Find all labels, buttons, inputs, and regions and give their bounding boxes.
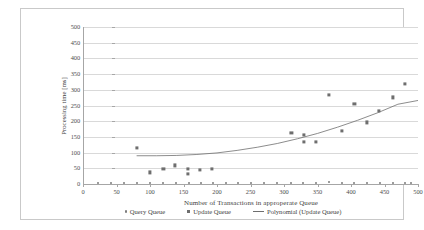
y-tick-mark [112,168,115,169]
x-tick-label: 350 [313,189,322,195]
data-point-update-queue [187,172,190,175]
plot-area [83,27,418,184]
y-axis-line [83,27,84,185]
x-tick-mark [351,184,352,187]
y-tick-mark [112,58,115,59]
y-axis-title-wrapper: Processing time [ms] [47,27,61,184]
x-tick-label: 500 [413,189,422,195]
x-tick-mark [83,184,84,187]
data-point-update-queue [327,93,330,96]
data-point-update-queue [210,167,213,170]
legend-label: Update Queue [193,208,231,215]
legend-dot-icon [125,210,127,212]
y-tick-mark [112,27,115,28]
x-tick-mark [184,184,185,187]
x-axis-title: Number of Transactions in approperate Qu… [83,199,419,207]
y-tick-mark [112,121,115,122]
x-tick-label: 300 [279,189,288,195]
legend-item: Query Queue [125,208,166,215]
data-point-update-queue [404,82,407,85]
polynomial-trendline [83,27,418,184]
data-point-update-queue [340,129,343,132]
data-point-update-queue [353,102,356,105]
legend-label: Polynomial (Update Queue) [267,208,341,215]
y-tick-mark [112,74,115,75]
x-tick-label: 100 [145,189,154,195]
data-point-update-queue [148,171,151,174]
data-point-update-queue [199,169,202,172]
data-point-update-queue [391,96,394,99]
legend-square-icon [187,210,190,213]
x-tick-mark [251,184,252,187]
legend-item: Polynomial (Update Queue) [253,208,341,215]
chart-figure: 050100150200250300350400450500 050100150… [0,0,424,230]
x-tick-label: 450 [380,189,389,195]
y-tick-mark [112,137,115,138]
y-tick-mark [112,153,115,154]
data-point-update-queue [378,110,381,113]
data-point-update-queue [162,167,165,170]
x-tick-label: 250 [246,189,255,195]
data-point-update-queue [303,140,306,143]
x-tick-mark [284,184,285,187]
x-tick-mark [117,184,118,187]
x-tick-label: 400 [346,189,355,195]
y-tick-mark [112,106,115,107]
x-tick-label: 200 [212,189,221,195]
data-point-update-queue [187,167,190,170]
x-tick-label: 50 [113,189,119,195]
data-point-update-queue [173,164,176,167]
x-tick-mark [418,184,419,187]
x-tick-mark [150,184,151,187]
x-tick-label: 150 [179,189,188,195]
legend-label: Query Queue [130,208,165,215]
y-axis-title: Processing time [ms] [60,46,67,166]
y-tick-mark [112,90,115,91]
chart-frame: 050100150200250300350400450500 050100150… [20,8,404,220]
data-point-update-queue [365,121,368,124]
x-tick-mark [385,184,386,187]
data-point-update-queue [315,140,318,143]
data-point-update-queue [303,133,306,136]
legend-line-icon [253,211,264,212]
data-point-update-queue [290,131,293,134]
legend-item: Update Queue [187,208,231,215]
x-tick-mark [217,184,218,187]
x-tick-label: 0 [81,189,84,195]
data-point-update-queue [135,146,138,149]
chart-legend: Query QueueUpdate QueuePolynomial (Updat… [41,208,424,215]
y-tick-mark [112,43,115,44]
x-tick-mark [318,184,319,187]
